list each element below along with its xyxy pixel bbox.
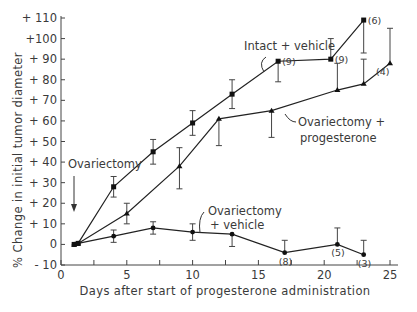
annotation-ovx-progesterone-1: Ovariectomy + bbox=[298, 115, 385, 129]
y-tick-label: + 90 bbox=[29, 52, 57, 66]
square-marker-icon bbox=[276, 59, 281, 64]
x-tick-label: 15 bbox=[251, 268, 266, 282]
y-tick-label: + 30 bbox=[29, 176, 57, 190]
annotation-ovx-progesterone-2: progesterone bbox=[300, 131, 377, 145]
sample-size-label: (6) bbox=[368, 15, 381, 26]
y-tick-label: 0 bbox=[50, 237, 57, 251]
y-tick-label: + 70 bbox=[29, 93, 57, 107]
pointer-line-icon bbox=[285, 114, 296, 122]
sample-size-label: (4) bbox=[376, 66, 389, 77]
x-tick-label: 5 bbox=[123, 268, 130, 282]
square-marker-icon bbox=[328, 57, 333, 62]
y-tick-label: + 80 bbox=[29, 73, 57, 87]
y-tick-label: - 10 bbox=[35, 258, 57, 272]
annotation-ovx-vehicle-1: Ovariectomy bbox=[208, 204, 282, 218]
y-tick-label: +100 bbox=[25, 32, 57, 46]
x-tick-label: 20 bbox=[317, 268, 332, 282]
annotation-ovx-vehicle-2: + vehicle bbox=[210, 218, 264, 232]
circle-marker-icon bbox=[151, 226, 156, 231]
y-tick-label: + 10 bbox=[29, 217, 57, 231]
x-axis-title: Days after start of progesterone adminis… bbox=[79, 284, 370, 298]
x-tick-label: 25 bbox=[383, 268, 398, 282]
x-tick-label: 0 bbox=[57, 268, 64, 282]
sample-size-label: (8) bbox=[279, 256, 292, 267]
circle-marker-icon bbox=[230, 232, 235, 237]
tumor-diameter-chart: - 100+ 10+ 20+ 30+ 40+ 50+ 60+ 70+ 80+ 9… bbox=[0, 0, 417, 312]
square-marker-icon bbox=[111, 184, 116, 189]
square-marker-icon bbox=[361, 18, 366, 23]
x-tick-label: 10 bbox=[185, 268, 200, 282]
circle-marker-icon bbox=[111, 234, 116, 239]
triangle-marker-icon bbox=[387, 60, 393, 65]
circle-marker-icon bbox=[361, 252, 366, 257]
pointer-line-icon bbox=[200, 212, 205, 233]
square-marker-icon bbox=[230, 92, 235, 97]
square-marker-icon bbox=[151, 149, 156, 154]
y-axis-title: % Change in initial tumor diameter bbox=[11, 52, 25, 268]
arrow-icon bbox=[71, 176, 77, 212]
y-tick-label: + 50 bbox=[29, 135, 57, 149]
y-tick-label: + 110 bbox=[22, 11, 57, 25]
circle-marker-icon bbox=[282, 250, 287, 255]
sample-size-label: (3) bbox=[358, 258, 371, 269]
circle-marker-icon bbox=[76, 241, 81, 246]
y-tick-label: + 20 bbox=[29, 196, 57, 210]
circle-marker-icon bbox=[190, 230, 195, 235]
square-marker-icon bbox=[190, 120, 195, 125]
circle-marker-icon bbox=[335, 242, 340, 247]
annotation-intact-vehicle: Intact + vehicle bbox=[244, 39, 335, 53]
annotation-ovariectomy: Ovariectomy bbox=[68, 157, 142, 171]
sample-size-label: (5) bbox=[331, 247, 344, 258]
y-tick-label: + 40 bbox=[29, 155, 57, 169]
sample-size-label: (9) bbox=[282, 56, 295, 67]
y-tick-label: + 60 bbox=[29, 114, 57, 128]
